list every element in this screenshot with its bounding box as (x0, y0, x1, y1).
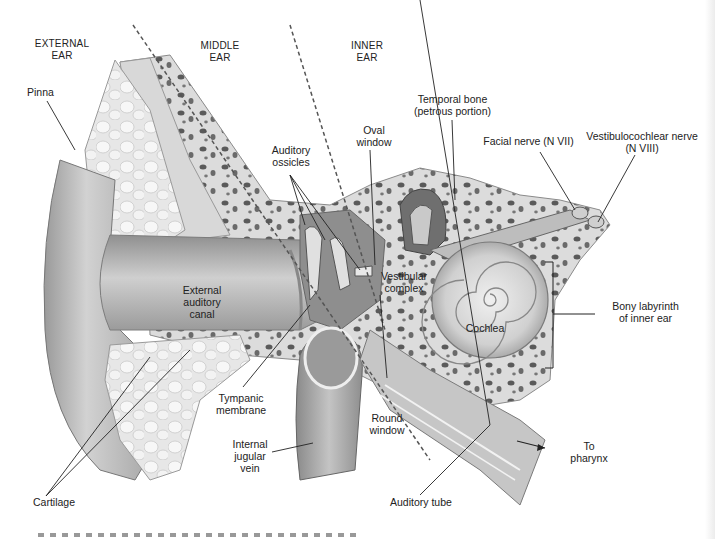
label-to-pharynx: To pharynx (567, 440, 611, 464)
label-external-auditory-canal: External auditory canal (177, 284, 227, 320)
label-bony-labyrinth: Bony labyrinth of inner ear (603, 300, 688, 324)
label-auditory-ossicles: Auditory ossicles (262, 144, 320, 168)
label-cochlea: Cochlea (460, 322, 510, 334)
label-oval-window: Oval window (352, 124, 396, 148)
label-internal-jugular-vein: Internal jugular vein (228, 438, 272, 474)
label-cartilage: Cartilage (33, 496, 75, 508)
label-temporal-bone: Temporal bone (petrous portion) (405, 93, 500, 117)
cropped-caption-text (38, 533, 358, 537)
region-external-ear: EXTERNAL EAR (33, 38, 91, 62)
label-pinna: Pinna (27, 86, 54, 98)
label-tympanic-membrane: Tympanic membrane (210, 392, 272, 416)
label-vestibular-complex: Vestibular complex (374, 270, 434, 294)
label-facial-nerve: Facial nerve (N VII) (471, 135, 586, 147)
label-vestibulocochlear-nerve: Vestibulocochlear nerve (N VIII) (578, 130, 706, 154)
region-middle-ear: MIDDLE EAR (194, 40, 246, 64)
label-round-window: Round window (365, 412, 409, 436)
label-auditory-tube: Auditory tube (390, 496, 452, 508)
region-inner-ear: INNER EAR (345, 40, 389, 64)
